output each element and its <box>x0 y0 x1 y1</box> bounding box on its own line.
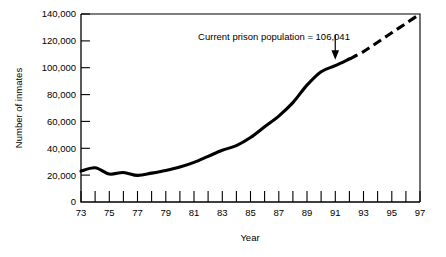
chart-canvas: 140,000 120,000 100,000 80,000 60,000 40… <box>0 0 446 257</box>
y-tick-label: 140,000 <box>42 8 76 19</box>
prison-population-chart: 140,000 120,000 100,000 80,000 60,000 40… <box>0 0 446 257</box>
x-tick-label: 81 <box>189 207 200 218</box>
x-tick-label: 91 <box>330 207 341 218</box>
x-axis-ticks <box>81 191 420 202</box>
y-axis-title: Number of inmates <box>13 68 24 149</box>
x-tick-label: 95 <box>387 207 398 218</box>
y-tick-label: 80,000 <box>47 89 76 100</box>
x-tick-label: 75 <box>104 207 115 218</box>
y-tick-label: 0 <box>71 196 76 207</box>
x-tick-label: 89 <box>302 207 313 218</box>
x-tick-label: 85 <box>245 207 256 218</box>
y-tick-label: 60,000 <box>47 116 76 127</box>
series-line-actual <box>81 59 349 175</box>
x-tick-label: 97 <box>415 207 426 218</box>
x-tick-label: 83 <box>217 207 228 218</box>
x-tick-label: 93 <box>358 207 369 218</box>
x-tick-label: 79 <box>161 207 172 218</box>
x-tick-label: 77 <box>132 207 143 218</box>
y-axis-tick-labels: 140,000 120,000 100,000 80,000 60,000 40… <box>42 8 76 207</box>
y-tick-label: 20,000 <box>47 170 76 181</box>
x-axis-title: Year <box>240 232 259 243</box>
y-tick-label: 120,000 <box>42 35 76 46</box>
annotation-label: Current prison population = 106,041 <box>198 31 350 42</box>
x-axis-tick-labels: 73 75 77 79 81 83 85 87 89 91 93 95 97 <box>76 207 426 218</box>
series-line-projected <box>349 14 420 59</box>
y-tick-label: 40,000 <box>47 143 76 154</box>
y-axis-ticks <box>81 14 90 175</box>
x-tick-label: 73 <box>76 207 87 218</box>
x-tick-label: 87 <box>274 207 285 218</box>
y-tick-label: 100,000 <box>42 62 76 73</box>
